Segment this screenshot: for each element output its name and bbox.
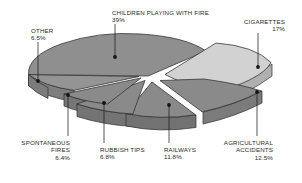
leader-dot-agricultural-accidents xyxy=(255,90,259,94)
slice-label-railways: RAILWAYS 11.8% xyxy=(164,146,196,161)
slice-label-cigarettes-text: CIGARETTES xyxy=(244,18,285,25)
leader-dot-rubbish-tips xyxy=(102,101,106,105)
slice-label-railways-text: RAILWAYS xyxy=(164,146,196,153)
slice-value-agricultural-accidents: 12.5% xyxy=(203,154,273,161)
slice-value-other: 6.5% xyxy=(31,34,53,41)
slice-label-agricultural-accidents-text: AGRICULTURAL xyxy=(224,139,273,146)
slice-label-spontaneous-fires-text2: FIRES xyxy=(8,146,70,153)
leader-dot-children-playing-with-fire xyxy=(113,55,117,59)
slice-label-rubbish-tips: RUBBISH TIPS 6.8% xyxy=(100,146,145,161)
slice-value-railways: 11.8% xyxy=(164,153,196,160)
slice-label-children-playing-with-fire: CHILDREN PLAYING WITH FIRE 39% xyxy=(112,9,209,24)
slice-label-rubbish-tips-text: RUBBISH TIPS xyxy=(100,146,145,153)
slice-label-other: OTHER 6.5% xyxy=(31,27,53,42)
slice-value-children-playing-with-fire: 39% xyxy=(112,16,209,23)
leader-dot-cigarettes xyxy=(256,65,260,69)
slice-label-agricultural-accidents-text2: ACCIDENTS xyxy=(203,146,273,153)
slice-label-agricultural-accidents: AGRICULTURAL ACCIDENTS 12.5% xyxy=(203,139,273,161)
slice-value-cigarettes: 17% xyxy=(244,25,285,32)
slice-value-rubbish-tips: 6.8% xyxy=(100,153,145,160)
slice-value-spontaneous-fires: 6.4% xyxy=(8,154,70,161)
slice-label-other-text: OTHER xyxy=(31,27,53,34)
slice-label-spontaneous-fires: SPONTANEOUS FIRES 6.4% xyxy=(8,139,70,161)
leader-dot-railways xyxy=(167,103,171,107)
slice-label-cigarettes: CIGARETTES 17% xyxy=(244,18,285,33)
pie-chart-figure: CHILDREN PLAYING WITH FIRE 39% CIGARETTE… xyxy=(0,0,302,183)
slice-label-spontaneous-fires-text: SPONTANEOUS xyxy=(21,139,70,146)
leader-dot-spontaneous-fires xyxy=(66,93,70,97)
leader-dot-other xyxy=(36,79,40,83)
slice-label-children-playing-with-fire-text: CHILDREN PLAYING WITH FIRE xyxy=(112,9,209,16)
